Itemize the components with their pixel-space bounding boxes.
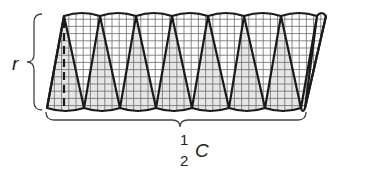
left-brace <box>27 14 42 110</box>
base-label-variable: C <box>195 140 209 161</box>
base-label-numerator: 1 <box>180 131 188 148</box>
base-label-denominator: 2 <box>180 152 188 169</box>
sector-parallelogram-diagram: r 1 2 C <box>0 0 365 173</box>
height-label: r <box>12 53 19 74</box>
bottom-brace <box>46 112 306 127</box>
